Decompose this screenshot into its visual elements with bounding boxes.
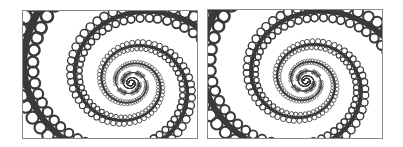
spiral-fractal-image: [23, 11, 198, 139]
fractal-panel-right: [207, 9, 383, 139]
spiral-fractal-image: [208, 10, 383, 139]
fractal-panel-left: [22, 10, 198, 139]
